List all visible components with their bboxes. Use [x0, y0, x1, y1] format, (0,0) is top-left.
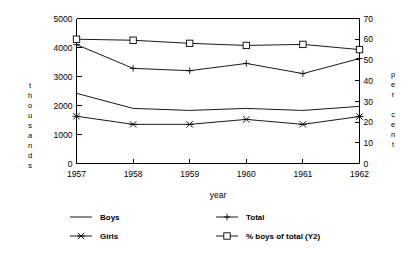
x-axis-tick-label: 1960: [237, 169, 256, 179]
legend-item-total[interactable]: Total: [216, 213, 265, 222]
data-point-marker: [356, 55, 362, 61]
legend-swatch-marker: [224, 214, 230, 220]
line-chart: 0100020003000400050000102030405060701957…: [0, 0, 413, 264]
chart-container: 0100020003000400050000102030405060701957…: [0, 0, 413, 264]
x-axis-tick-label: 1959: [180, 169, 199, 179]
x-axis-tick-label: 1961: [293, 169, 312, 179]
y2-axis-tick-label: 50: [364, 55, 374, 65]
data-point-marker: [299, 121, 307, 127]
data-series-group: [73, 36, 364, 128]
data-point-marker: [243, 42, 249, 48]
y2-axis-tick-label: 40: [364, 76, 374, 86]
y2-axis-tick-label: 70: [364, 14, 374, 24]
y2-axis-title-char: c: [391, 110, 395, 119]
legend-label: Total: [246, 213, 265, 222]
y-axis-title-char: d: [28, 151, 32, 160]
series-total: [73, 41, 362, 76]
data-point-marker: [129, 121, 137, 127]
legend-label: Girls: [100, 232, 119, 241]
data-point-marker: [300, 70, 306, 76]
legend-item-boys[interactable]: Boys: [70, 213, 120, 222]
data-point-marker: [300, 41, 306, 47]
data-point-marker: [186, 121, 194, 127]
data-point-marker: [73, 36, 79, 42]
axis-ticks: 0100020003000400050000102030405060701957…: [54, 14, 374, 179]
y2-axis-title-char: e: [391, 80, 395, 89]
data-point-marker: [356, 46, 362, 52]
series-line: [77, 45, 360, 74]
data-point-marker: [130, 65, 136, 71]
legend-label: Boys: [100, 213, 120, 222]
y-axis-title-char: n: [28, 141, 32, 150]
y-axis-tick-label: 1000: [54, 130, 73, 140]
series-line: [77, 93, 360, 110]
y-axis-title-char: h: [28, 91, 32, 100]
series-line: [77, 39, 360, 49]
y-axis-title-char: s: [28, 161, 32, 170]
y2-axis-tick-label: 30: [364, 97, 374, 107]
y-axis-tick-label: 2000: [54, 101, 73, 111]
y-axis-title-char: u: [28, 111, 32, 120]
y2-axis-tick-label: 60: [364, 34, 374, 44]
y2-axis-tick-label: 20: [364, 117, 374, 127]
legend-item-boys-of-total-y2[interactable]: % boys of total (Y2): [216, 232, 321, 241]
data-point-marker: [242, 116, 250, 122]
legend-swatch-marker: [77, 233, 85, 239]
series-boys-of-total-y2: [73, 36, 362, 53]
y2-axis-title-char: r: [392, 90, 395, 99]
data-point-marker: [187, 40, 193, 46]
series-girls: [73, 113, 364, 128]
axis-labels-group: thousandspercentyear: [28, 70, 395, 200]
y-axis-title-char: s: [28, 121, 32, 130]
legend-item-girls[interactable]: Girls: [70, 232, 119, 241]
y-axis-title-char: a: [28, 131, 33, 140]
x-axis-tick-label: 1962: [350, 169, 369, 179]
y2-axis-title-char: n: [391, 130, 395, 139]
y-axis-tick-label: 4000: [54, 43, 73, 53]
y2-axis-title-char: p: [391, 70, 395, 79]
y2-axis-title-char: e: [391, 120, 395, 129]
y2-axis-tick-label: 0: [364, 159, 369, 169]
data-point-marker: [187, 68, 193, 74]
x-axis-tick-label: 1958: [124, 169, 143, 179]
data-point-marker: [130, 37, 136, 43]
x-axis-title: year: [210, 190, 227, 200]
y2-axis-tick-label: 10: [364, 138, 374, 148]
chart-legend: BoysTotalGirls% boys of total (Y2): [70, 213, 321, 241]
y-axis-title-char: t: [29, 81, 32, 90]
data-point-marker: [243, 60, 249, 66]
legend-swatch-marker: [224, 233, 230, 239]
legend-label: % boys of total (Y2): [246, 232, 321, 241]
series-boys: [77, 93, 360, 110]
y-axis-title-char: o: [28, 101, 32, 110]
y-axis-tick-label: 3000: [54, 72, 73, 82]
series-line: [77, 116, 360, 124]
y-axis-tick-label: 0: [68, 159, 73, 169]
x-axis-tick-label: 1957: [67, 169, 86, 179]
y-axis-tick-label: 5000: [54, 14, 73, 24]
y2-axis-title-char: t: [392, 140, 395, 149]
